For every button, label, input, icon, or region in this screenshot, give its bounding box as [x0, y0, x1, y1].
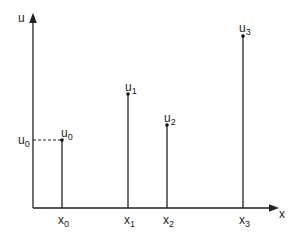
x-tick-label-x2: x2	[163, 214, 174, 226]
y-axis-label: u	[18, 12, 25, 24]
x-tick-label-x0: x0	[58, 214, 69, 226]
x-axis-label: x	[279, 208, 285, 220]
point-label-u3: u3	[239, 22, 251, 34]
u0-reference-label: u0	[18, 134, 30, 146]
point-label-u2: u2	[164, 112, 176, 124]
point-label-u0: u0	[61, 127, 73, 139]
x-tick-label-x3: x3	[239, 214, 250, 226]
point-label-u1: u1	[125, 81, 137, 93]
x-tick-label-x1: x1	[124, 214, 135, 226]
